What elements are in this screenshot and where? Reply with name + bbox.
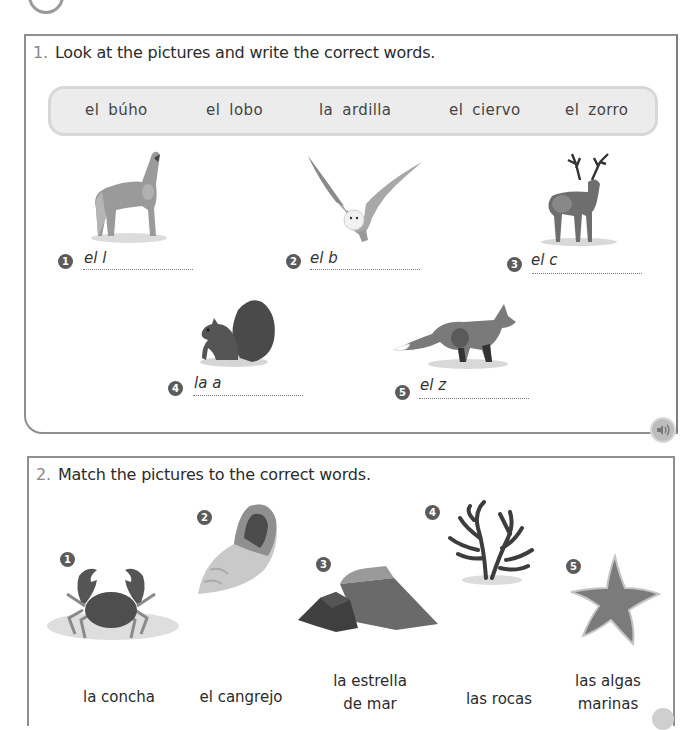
crab-illustration (45, 558, 185, 644)
starfish-illustration (569, 554, 661, 646)
match-word-line: la estrella (320, 670, 420, 693)
word-bank-item: la ardilla (319, 101, 391, 119)
deer-illustration (532, 152, 626, 248)
header-icon-circle (28, 0, 64, 14)
exercise-instruction: Look at the pictures and write the corre… (55, 43, 435, 62)
answer-prompt: el c (531, 251, 557, 269)
answer-prompt: el l (84, 249, 106, 267)
wolf-illustration (84, 148, 174, 244)
answer-blank-line[interactable] (310, 269, 420, 270)
answer-prompt: la a (194, 374, 221, 392)
match-word: las rocas (449, 688, 549, 711)
seaweed-illustration (444, 498, 540, 588)
match-word: la estrella de mar (320, 670, 420, 716)
answer-blank-line[interactable] (83, 269, 193, 270)
speaker-icon[interactable] (650, 417, 676, 443)
answer-blank-line[interactable] (532, 273, 642, 274)
exercise-number: 1. (33, 43, 48, 62)
answer-blank-line[interactable] (419, 398, 529, 399)
match-word: el cangrejo (191, 686, 291, 709)
answer-prompt: el b (310, 249, 338, 267)
shell-illustration (194, 500, 284, 600)
word-bank: el búho el lobo la ardilla el ciervo el … (48, 86, 658, 136)
match-word: la concha (69, 686, 169, 709)
match-word-line: de mar (320, 693, 420, 716)
owl-illustration (306, 152, 426, 244)
exercise-1-title: 1.Look at the pictures and write the cor… (33, 43, 435, 62)
picture-number-badge: 4 (425, 505, 440, 520)
match-word-line: marinas (558, 693, 658, 716)
squirrel-illustration (194, 296, 278, 370)
exercise-2-title: 2.Match the pictures to the correct word… (36, 465, 371, 484)
word-bank-item: el lobo (206, 101, 263, 119)
exercise-2-panel: 2.Match the pictures to the correct word… (27, 456, 675, 726)
match-word: las algas marinas (558, 670, 658, 716)
word-bank-item: el zorro (565, 101, 628, 119)
rocks-illustration (296, 562, 442, 634)
exercise-1-panel: 1.Look at the pictures and write the cor… (24, 34, 678, 434)
item-number-badge: 2 (286, 254, 301, 269)
answer-prompt: el z (420, 376, 446, 394)
exercise-number: 2. (36, 465, 51, 484)
item-number-badge: 5 (395, 385, 410, 400)
word-bank-item: el ciervo (449, 101, 521, 119)
item-number-badge: 1 (58, 254, 73, 269)
exercise-instruction: Match the pictures to the correct words. (58, 465, 371, 484)
word-bank-item: el búho (85, 101, 148, 119)
match-word-line: las algas (558, 670, 658, 693)
fox-illustration (394, 292, 518, 372)
item-number-badge: 3 (507, 257, 522, 272)
answer-blank-line[interactable] (193, 395, 303, 396)
item-number-badge: 4 (168, 381, 183, 396)
speaker-icon[interactable] (652, 708, 674, 730)
